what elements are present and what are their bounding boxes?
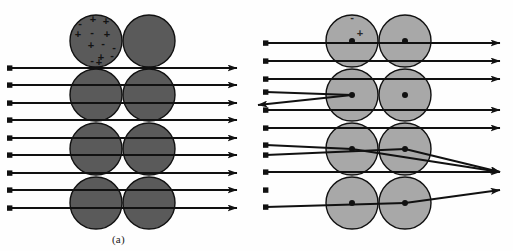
minus-charge-symbol: -	[101, 37, 105, 49]
nucleus-dot	[402, 92, 408, 98]
beam-source-dot	[263, 204, 268, 209]
beam-source-dot	[7, 65, 12, 70]
beam-source-dot	[263, 89, 268, 94]
beam-source-dot	[7, 152, 12, 157]
nucleus-dot	[349, 92, 355, 98]
beam-source-dot	[7, 170, 12, 175]
beam-source-dot	[263, 152, 268, 157]
atom-circle	[123, 69, 175, 121]
plus-charge-symbol: +	[90, 13, 96, 25]
nucleus-dot	[402, 38, 408, 44]
atom-circle	[123, 15, 175, 67]
beam-source-dot	[263, 58, 268, 63]
nucleus-dot	[349, 38, 355, 44]
minus-charge-symbol: -	[110, 49, 114, 61]
nucleus-dot	[402, 200, 408, 206]
beam-source-dot	[263, 40, 268, 45]
beam-source-dot	[263, 76, 268, 81]
beam-source-dot	[263, 107, 268, 112]
atom-circle	[70, 69, 122, 121]
atom-circle	[123, 123, 175, 175]
plus-charge-symbol: +	[75, 28, 81, 40]
beam-source-dot	[7, 187, 12, 192]
plus-charge-symbol: +	[96, 56, 102, 68]
scattering-figure: -+++-++--+--+ (a) -+ (b)	[0, 0, 513, 251]
nucleus-dot	[349, 200, 355, 206]
atom-group-a	[70, 15, 175, 229]
nucleus-dot	[402, 146, 408, 152]
atom-group-b	[326, 15, 431, 229]
minus-charge-symbol: -	[350, 11, 354, 23]
minus-charge-symbol: -	[90, 54, 94, 66]
panel-b-diagram: -+	[256, 0, 513, 251]
atom-circle	[70, 177, 122, 229]
panel-a-thomson-model: -+++-++--+--+ (a)	[0, 0, 256, 251]
beam-source-dot	[263, 169, 268, 174]
plus-charge-symbol: +	[103, 15, 109, 27]
beam-source-dot	[263, 187, 268, 192]
plus-charge-symbol: +	[357, 27, 363, 39]
beam-source-dot	[7, 100, 12, 105]
beam-source-dot	[263, 142, 268, 147]
beam-group-a	[7, 65, 237, 210]
beam-source-dot	[7, 117, 12, 122]
atom-circle	[123, 177, 175, 229]
nucleus-dot	[349, 146, 355, 152]
panel-a-diagram: -+++-++--+--+	[0, 0, 256, 251]
beam-group-b	[258, 38, 500, 210]
beam-source-dot	[7, 82, 12, 87]
atom-circle	[70, 123, 122, 175]
panel-b-rutherford-model: -+ (b)	[256, 0, 513, 251]
minus-charge-symbol: -	[90, 26, 94, 38]
beam-source-dot	[7, 135, 12, 140]
caption-panel-a: (a)	[112, 233, 125, 245]
beam-source-dot	[7, 205, 12, 210]
beam-source-dot	[263, 125, 268, 130]
plus-charge-symbol: +	[88, 39, 94, 51]
